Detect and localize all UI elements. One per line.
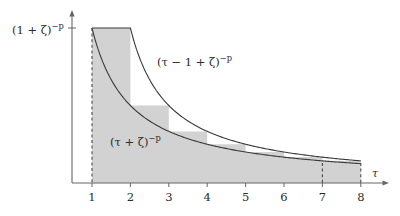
step-region-path [92, 28, 361, 183]
x-axis-tick-label: 4 [204, 190, 211, 204]
x-axis-name-text: τ [372, 167, 378, 180]
x-axis-tick-label: 6 [280, 190, 287, 204]
x-axis-name: τ [372, 167, 378, 180]
x-axis-ticks [92, 183, 361, 187]
upper-curve-label-base: (τ − 1 + ζ) [157, 55, 220, 69]
x-axis-tick-label: 7 [319, 190, 326, 204]
shaded-step-region [92, 28, 361, 183]
y-axis-arrowhead [69, 10, 74, 17]
x-axis-tick-label: 3 [165, 190, 172, 204]
x-axis-tick-label: 1 [88, 190, 95, 204]
y-axis-label-exponent: −p [51, 21, 63, 31]
x-axis-tick-label: 5 [242, 190, 249, 204]
lower-curve-label-base: (τ + ζ) [110, 135, 149, 149]
lower-curve-label-exponent: −p [149, 133, 161, 143]
x-axis-tick-label: 8 [357, 190, 364, 204]
upper-curve-label: (τ − 1 + ζ)−p [157, 53, 232, 69]
y-axis-label-base: (1 + ζ) [12, 23, 51, 37]
x-axis-arrowhead [383, 180, 390, 185]
upper-curve-label-exponent: −p [220, 53, 232, 63]
y-axis-label: (1 + ζ)−p [12, 21, 64, 37]
lower-curve-label: (τ + ζ)−p [110, 133, 161, 149]
figure-container: (1 + ζ)−p (τ − 1 + ζ)−p (τ + ζ)−p τ 1234… [0, 0, 400, 216]
x-axis-tick-label: 2 [127, 190, 134, 204]
